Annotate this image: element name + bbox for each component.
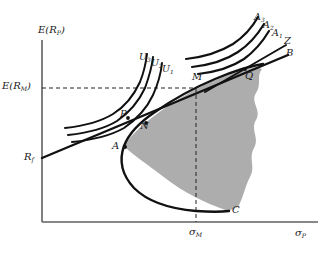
x-tick-label-sub: M (196, 231, 202, 238)
label-point-c: C (232, 205, 240, 215)
label-point-b: B (286, 48, 293, 58)
label-risk-free-rate: Rf (24, 152, 34, 162)
label-a1-sub: 1 (279, 33, 283, 39)
label-a3-main: A (254, 11, 261, 22)
label-u3-main: U (139, 51, 147, 62)
x-axis-label: σP (295, 228, 306, 238)
indifference-curve-a3 (186, 17, 258, 59)
label-a2-main: A (263, 19, 270, 30)
indifference-curve-u3 (65, 54, 147, 128)
label-u1-sub: 1 (170, 69, 174, 75)
label-point-a: A (112, 141, 119, 151)
label-u1-main: U (162, 63, 170, 74)
label-point-p: P (120, 109, 127, 119)
label-indifference-curve-u2: U2 (151, 58, 163, 68)
label-risk-free-rate-main: R (24, 151, 32, 162)
efficient-frontier-diagram: E(RP) σP E(RM) σM Rf A P N M Q C U3 U2 U… (0, 0, 330, 254)
label-a1-main: A (272, 27, 279, 38)
y-tick-label-close: ) (27, 80, 31, 91)
x-tick-label-main: σ (189, 226, 196, 237)
y-axis-label-close: ) (61, 24, 65, 35)
indifference-curve-a2 (192, 24, 264, 67)
y-tick-label-expected-return-m: E(RM) (2, 81, 31, 91)
x-tick-label-sigma-m: σM (189, 227, 202, 237)
y-axis-label: E(RP) (38, 25, 65, 35)
label-u2-main: U (151, 57, 159, 68)
label-point-q: Q (245, 71, 253, 81)
x-axis-label-sub: P (302, 232, 306, 239)
y-tick-label-sub: M (21, 85, 27, 92)
x-axis-label-main: σ (295, 227, 302, 238)
label-indifference-curve-u1: U1 (162, 64, 174, 74)
label-line-z: Z (284, 36, 291, 46)
y-tick-label-main: E(R (2, 80, 21, 91)
label-point-n: N (140, 121, 149, 131)
y-axis-label-sub: P (57, 29, 61, 36)
label-indifference-curve-a1: A1 (272, 28, 283, 38)
point-dot-a (123, 145, 127, 149)
label-point-m: M (192, 72, 202, 82)
y-axis-label-main: E(R (38, 24, 57, 35)
label-indifference-curve-u3: U3 (139, 52, 151, 62)
label-risk-free-rate-sub: f (32, 156, 34, 163)
